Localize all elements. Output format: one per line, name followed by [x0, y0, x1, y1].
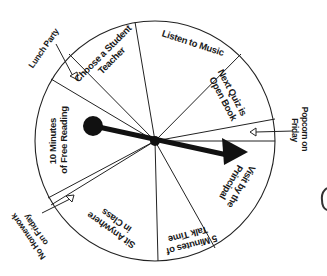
- wheel-hub: [150, 136, 160, 146]
- outer-label-popcorn-friday: Popcorn on Friday: [290, 107, 310, 153]
- outer-label-no-homework-friday: No Homework on Friday: [7, 204, 55, 261]
- segment-label-ten-minutes-free-reading: 10 Minutes of Free Reading: [47, 106, 69, 174]
- partial-shape-edge: [322, 188, 327, 210]
- spinner-diagram: Choose a Student Teacher Listen to Music…: [0, 0, 327, 276]
- pointer-knob: [83, 116, 103, 136]
- outer-label-lunch-party: Lunch Party: [26, 26, 61, 70]
